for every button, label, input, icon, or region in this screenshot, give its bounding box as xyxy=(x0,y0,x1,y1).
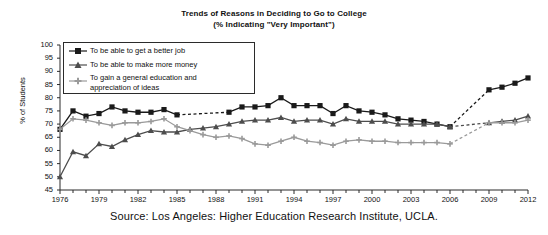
y-tick-95: 95 xyxy=(33,54,53,62)
legend-marker-more-money xyxy=(68,60,88,70)
legend-marker-general-education xyxy=(68,76,88,86)
y-tick-90: 90 xyxy=(33,67,53,75)
y-tick-45: 45 xyxy=(33,186,53,194)
x-tick-1991: 1991 xyxy=(240,196,270,204)
source-caption: Source: Los Angeles: Higher Education Re… xyxy=(0,210,548,222)
x-tick-2009: 2009 xyxy=(474,196,504,204)
legend-label-general-education-line-2: appreciation of ideas xyxy=(90,83,159,93)
x-tick-2012: 2012 xyxy=(513,196,543,204)
x-tick-1985: 1985 xyxy=(162,196,192,204)
plot-area xyxy=(0,0,548,235)
legend-label-better-job: To be able to get a better job xyxy=(90,46,185,56)
chart-legend: To be able to get a better job To be abl… xyxy=(63,42,255,94)
x-tick-1976: 1976 xyxy=(45,196,75,204)
y-tick-50: 50 xyxy=(33,173,53,181)
x-tick-1988: 1988 xyxy=(201,196,231,204)
y-tick-65: 65 xyxy=(33,133,53,141)
y-tick-100: 100 xyxy=(33,41,53,49)
legend-label-general-education-line-1: To gain a general education and xyxy=(90,73,197,83)
chart-figure: Trends of Reasons in Deciding to Go to C… xyxy=(0,0,548,235)
y-tick-70: 70 xyxy=(33,120,53,128)
x-tick-1982: 1982 xyxy=(123,196,153,204)
y-tick-75: 75 xyxy=(33,107,53,115)
x-tick-1979: 1979 xyxy=(84,196,114,204)
x-tick-2006: 2006 xyxy=(435,196,465,204)
x-tick-2000: 2000 xyxy=(357,196,387,204)
x-tick-2003: 2003 xyxy=(396,196,426,204)
legend-label-more-money: To be able to make more money xyxy=(90,60,197,70)
y-tick-85: 85 xyxy=(33,81,53,89)
y-tick-60: 60 xyxy=(33,146,53,154)
x-tick-1997: 1997 xyxy=(318,196,348,204)
y-tick-55: 55 xyxy=(33,160,53,168)
x-tick-1994: 1994 xyxy=(279,196,309,204)
legend-marker-better-job xyxy=(68,46,88,56)
y-tick-80: 80 xyxy=(33,94,53,102)
